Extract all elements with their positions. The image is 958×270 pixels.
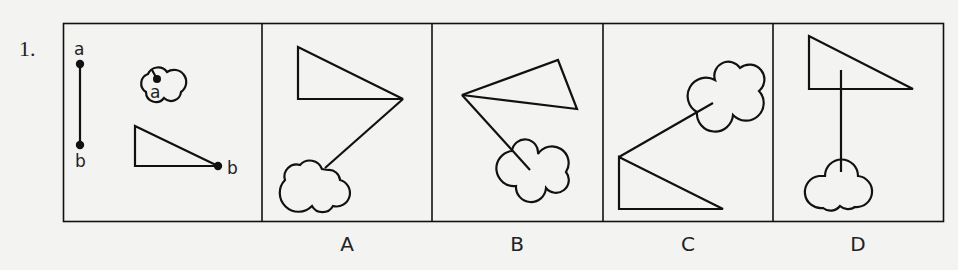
- puzzle-figure: a b a b: [0, 0, 958, 270]
- option-label-b[interactable]: B: [497, 232, 537, 256]
- option-a-figure: [280, 47, 403, 212]
- cloud-shape-reference: [141, 67, 186, 102]
- option-c-figure: [619, 62, 764, 209]
- label-triangle-b: b: [227, 158, 238, 178]
- option-d-figure: [805, 36, 913, 211]
- label-segment-b: b: [75, 151, 86, 171]
- segment-ab: [76, 60, 84, 149]
- label-cloud-a: a: [150, 82, 160, 102]
- point-a-dot: [76, 60, 84, 68]
- option-label-d[interactable]: D: [838, 232, 878, 256]
- puzzle-frame: [64, 24, 944, 222]
- reference-panel: [76, 60, 222, 170]
- option-b-figure: [462, 60, 577, 202]
- point-b-dot: [76, 141, 84, 149]
- triangle-point-b-dot: [214, 162, 222, 170]
- label-segment-a: a: [74, 39, 84, 59]
- option-label-a[interactable]: A: [327, 232, 367, 256]
- triangle-reference: [135, 126, 218, 166]
- option-label-c[interactable]: C: [668, 232, 708, 256]
